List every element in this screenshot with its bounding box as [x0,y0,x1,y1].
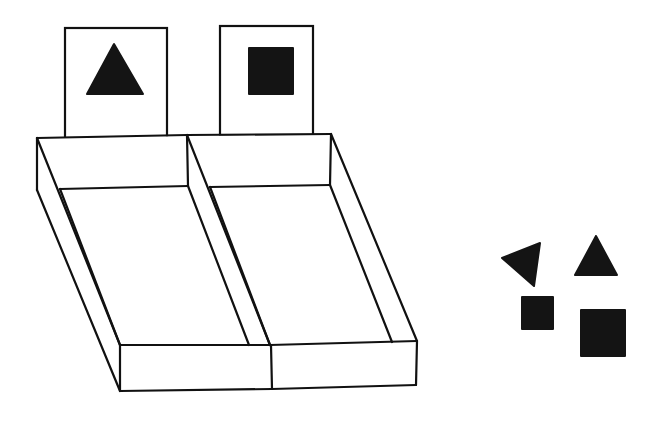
sample-card-triangle [65,28,167,138]
sorting-diagram [0,0,663,423]
sample-card-square [220,26,313,136]
tray-divider-back-edge [187,135,188,186]
tray-front-divider-edge [271,345,272,389]
square-icon [249,48,293,94]
loose-shapes [502,236,625,356]
loose-square-small-icon[interactable] [522,297,553,329]
sorting-tray [37,134,417,391]
loose-triangle-rotated-icon[interactable] [502,243,540,286]
tray-front-right-edge [416,341,417,385]
loose-triangle-upright-icon[interactable] [575,236,617,275]
loose-square-large-icon[interactable] [581,310,625,356]
tray-right-back-edge [330,134,331,185]
